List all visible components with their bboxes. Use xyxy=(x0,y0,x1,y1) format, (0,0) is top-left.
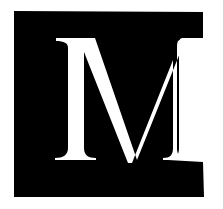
m-logo: M logo xyxy=(0,0,223,209)
m-logo-icon: M logo xyxy=(0,0,223,209)
